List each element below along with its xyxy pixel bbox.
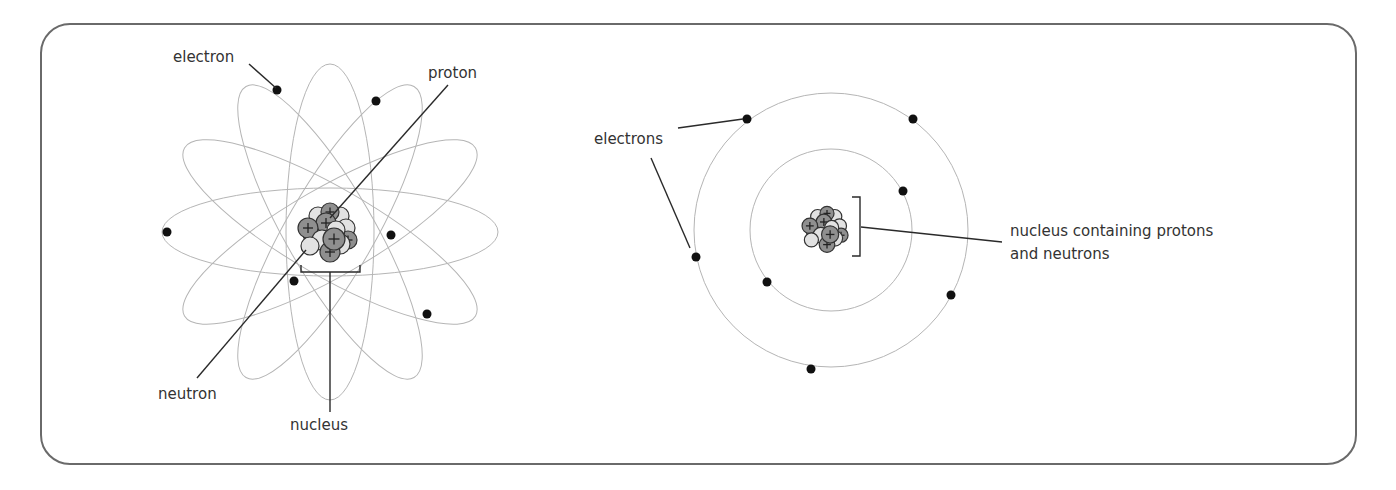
electrons-label: electrons [594,130,663,148]
electron-dot [290,277,299,286]
electron-label: electron [173,48,234,66]
atom-diagrams: electron proton neutron nucleus electron… [0,0,1396,490]
electron-dot [947,291,956,300]
left-atom-diagram: electron proton neutron nucleus [158,48,498,434]
electron-dot [899,187,908,196]
electron-dot [763,278,772,287]
electron-dot [163,228,172,237]
electrons-leader-line-top [678,119,743,128]
proton-leader-line [330,85,448,218]
nucleus-description-line1: nucleus containing protons [1010,222,1213,240]
electron-dot [387,231,396,240]
right-atom-diagram: electrons nucleus containing protons and… [594,93,1213,374]
right-nucleus [802,206,848,252]
right-nucleus-leader-line [861,227,1002,242]
electron-dot [692,253,701,262]
neutron-sphere [804,233,818,247]
nucleus-label: nucleus [290,416,348,434]
electron-dot [372,97,381,106]
neutron [804,233,818,247]
proton-label: proton [428,64,477,82]
proton [323,228,345,250]
nucleus-description-line2: and neutrons [1010,245,1110,263]
electron-dot [743,115,752,124]
left-nucleus [298,203,357,262]
electrons-leader-line-bottom [651,158,690,248]
neutron-label: neutron [158,385,217,403]
electron-dot [807,365,816,374]
electron-dot [423,310,432,319]
electron-dot [909,115,918,124]
neutron-leader-line [197,250,306,378]
proton [822,226,839,243]
right-nucleus-bracket [852,197,860,256]
